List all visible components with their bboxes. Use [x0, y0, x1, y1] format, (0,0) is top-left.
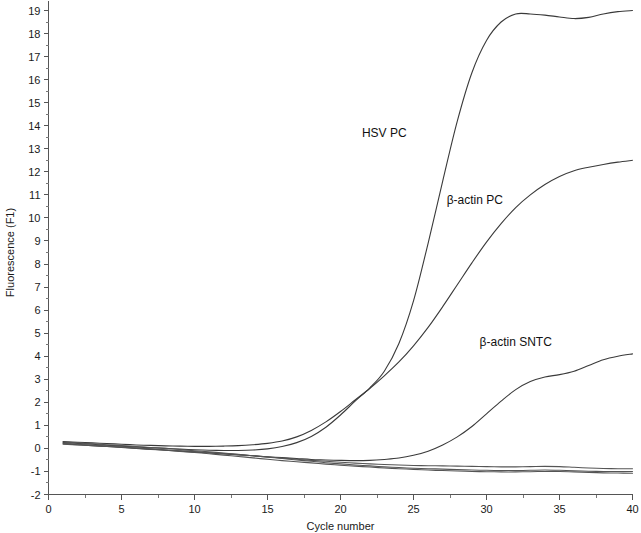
plot-background: [0, 0, 641, 533]
y-tick-label: 18: [28, 28, 40, 40]
x-tick-label: 20: [334, 503, 346, 515]
y-tick-label: 13: [28, 143, 40, 155]
x-axis-title: Cycle number: [307, 520, 375, 532]
y-tick-label: 6: [34, 304, 40, 316]
x-tick-label: 40: [626, 503, 638, 515]
x-tick-label: 25: [407, 503, 419, 515]
y-tick-label: 9: [34, 235, 40, 247]
y-tick-label: 3: [34, 373, 40, 385]
y-axis-title: Fluorescence (F1): [4, 208, 16, 297]
x-tick-label: 5: [118, 503, 124, 515]
x-tick-label: 35: [553, 503, 565, 515]
curve-label: β-actin SNTC: [480, 335, 553, 349]
x-tick-label: 0: [45, 503, 51, 515]
y-tick-label: 15: [28, 97, 40, 109]
y-tick-label: 0: [34, 442, 40, 454]
curve-label: β-actin PC: [447, 193, 504, 207]
x-tick-label: 10: [188, 503, 200, 515]
y-tick-label: 11: [29, 189, 40, 201]
y-tick-label: 8: [34, 258, 40, 270]
y-tick-label: 7: [34, 281, 40, 293]
y-tick-label: 4: [34, 350, 40, 362]
y-tick-label: 2: [34, 396, 40, 408]
x-tick-label: 30: [480, 503, 492, 515]
y-tick-label: 5: [34, 327, 40, 339]
y-tick-label: -2: [31, 489, 41, 501]
y-tick-label: 16: [28, 74, 40, 86]
y-tick-label: 17: [28, 51, 40, 63]
y-tick-label: 1: [34, 419, 40, 431]
curve-label: HSV PC: [362, 126, 407, 140]
y-tick-label: 14: [28, 120, 40, 132]
y-tick-label: -1: [31, 465, 41, 477]
y-tick-label: 19: [28, 5, 40, 17]
x-tick-label: 15: [261, 503, 273, 515]
y-tick-label: 10: [28, 212, 40, 224]
amplification-plot: -2-1012345678910111213141516171819 05101…: [0, 0, 641, 533]
y-tick-label: 12: [28, 166, 40, 178]
chart-page: -2-1012345678910111213141516171819 05101…: [0, 0, 641, 533]
